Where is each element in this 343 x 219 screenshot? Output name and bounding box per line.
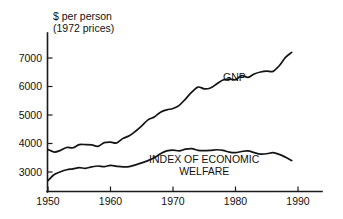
x-axis-ticks: 19501960197019801990: [36, 187, 310, 208]
y-tick-label-4000: 4000: [19, 137, 43, 149]
y-tick-label-7000: 7000: [19, 52, 43, 64]
y-tick-label-5000: 5000: [19, 109, 43, 121]
chart-container: 30004000500060007000 1950196019701980199…: [0, 0, 343, 219]
y-axis-title: $ per person (1972 prices): [53, 10, 114, 34]
chart-annotations: GNPINDEX OF ECONOMICWELFARE: [149, 71, 260, 177]
series-label-index-of-economic-welfare-line-1: INDEX OF ECONOMIC: [149, 153, 260, 165]
line-chart: 30004000500060007000 1950196019701980199…: [0, 0, 343, 219]
y-tick-label-3000: 3000: [19, 166, 43, 178]
x-tick-label-1990: 1990: [286, 195, 310, 207]
x-tick-label-1960: 1960: [99, 195, 123, 207]
series-label-index-of-economic-welfare-line-2: WELFARE: [179, 165, 229, 177]
series-label-gnp: GNP: [223, 71, 246, 83]
x-tick-label-1980: 1980: [224, 195, 248, 207]
y-axis-title-line-1: $ per person: [53, 10, 112, 22]
x-tick-label-1950: 1950: [36, 195, 60, 207]
x-tick-label-1970: 1970: [161, 195, 185, 207]
y-tick-label-6000: 6000: [19, 80, 43, 92]
series-line-gnp: [48, 52, 292, 152]
y-axis-title-line-2: (1972 prices): [53, 22, 114, 34]
